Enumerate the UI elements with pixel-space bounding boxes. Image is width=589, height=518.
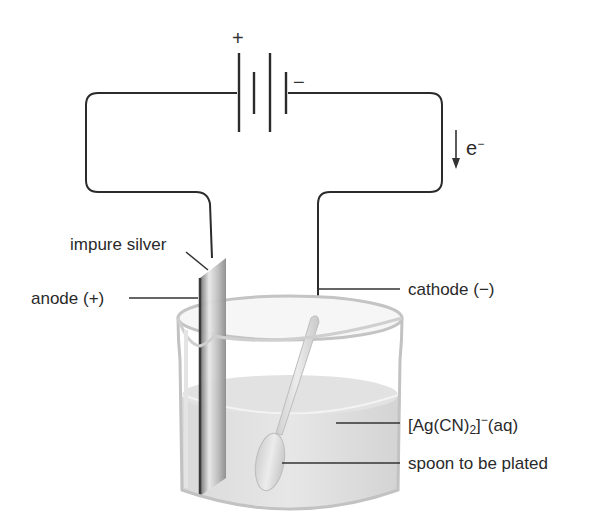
anode-electrode xyxy=(200,258,226,496)
electron-flow-arrow-icon xyxy=(452,130,460,169)
battery-positive-symbol: + xyxy=(232,28,244,48)
label-cathode: cathode (−) xyxy=(408,281,494,298)
label-spoon: spoon to be plated xyxy=(408,455,548,472)
label-anode: anode (+) xyxy=(31,290,104,307)
solution-formula-charge: − xyxy=(481,413,488,427)
electron-symbol: e xyxy=(466,137,477,159)
electron-label: e− xyxy=(466,138,484,158)
solution-formula-state: (aq) xyxy=(488,416,518,435)
electron-charge: − xyxy=(477,137,484,151)
battery-icon xyxy=(239,53,286,132)
label-solution: [Ag(CN)2]−(aq) xyxy=(408,414,518,436)
circuit-wire xyxy=(86,93,442,318)
battery-negative-symbol: − xyxy=(293,72,305,92)
solution-formula-prefix: [Ag(CN) xyxy=(408,416,469,435)
label-impure-silver: impure silver xyxy=(70,236,166,253)
